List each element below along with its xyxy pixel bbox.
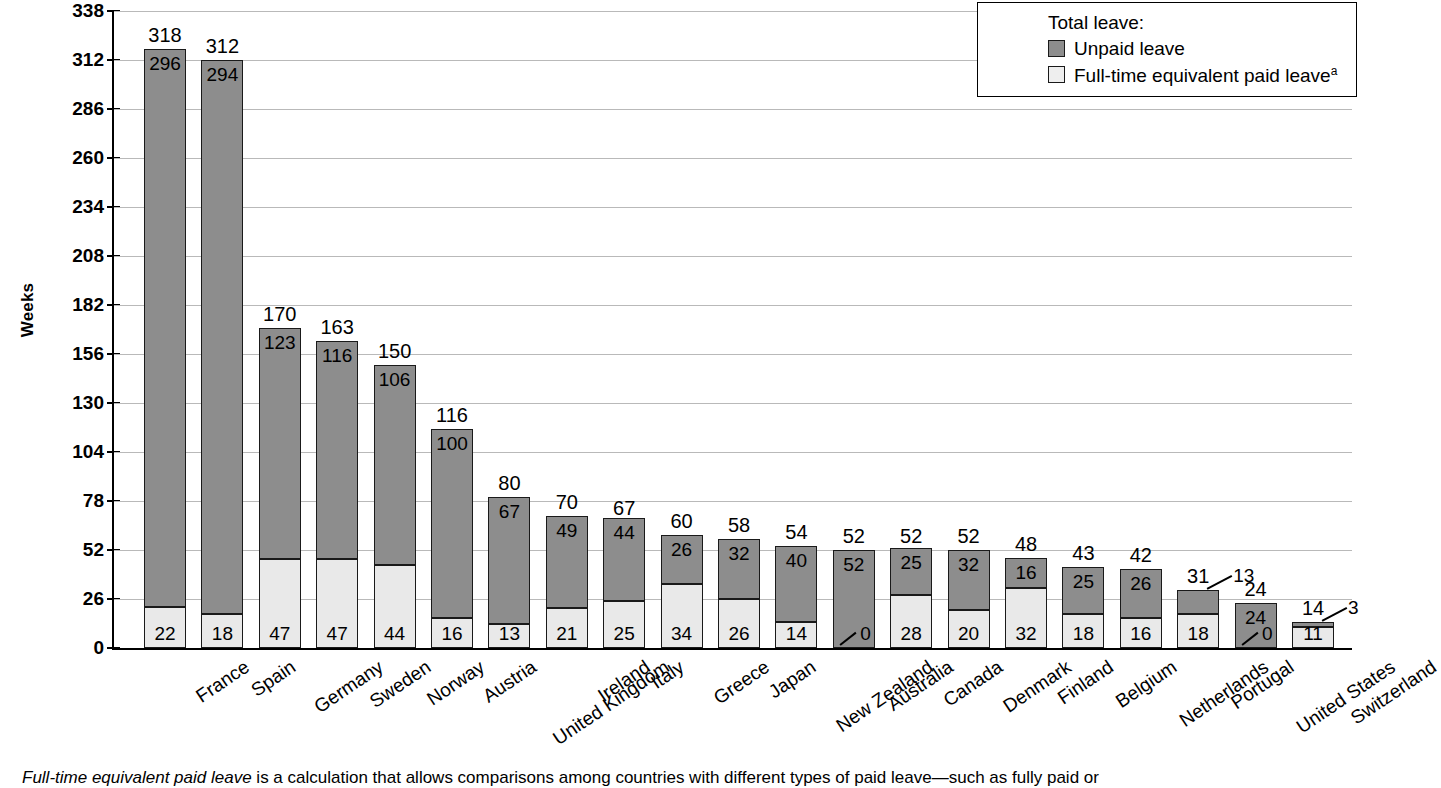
- bar-value-label-paid: 0: [833, 624, 871, 643]
- bar-total-label: 48: [997, 534, 1055, 554]
- bar-value-label-unpaid: 52: [833, 555, 875, 574]
- y-tick-label: 260: [42, 147, 104, 169]
- legend-label-paid: Full-time equivalent paid leavea: [1074, 61, 1337, 86]
- bar-value-label-unpaid: 296: [144, 54, 186, 73]
- legend-swatch-paid-icon: [1048, 66, 1065, 83]
- bar-value-label-paid: 11: [1292, 624, 1334, 643]
- bar-value-label-unpaid: 49: [546, 521, 588, 540]
- x-axis-label: Norway: [423, 656, 489, 710]
- bar-value-label-paid: 47: [316, 624, 358, 643]
- bar-value-label-paid: 22: [144, 624, 186, 643]
- bar-value-label-unpaid: 26: [1120, 574, 1162, 593]
- y-tick-label: 130: [42, 392, 104, 414]
- bar-segment-unpaid[interactable]: [259, 328, 301, 560]
- bar-value-label-unpaid: 100: [431, 434, 473, 453]
- footnote-term: Full-time equivalent paid leave: [22, 768, 252, 787]
- footnote-rest: is a calculation that allows comparisons…: [252, 768, 1099, 787]
- bar-total-label: 52: [825, 526, 883, 546]
- bar-group[interactable]: [259, 328, 301, 648]
- y-tick-label: 208: [42, 245, 104, 267]
- bar-value-label-unpaid: 24: [1235, 608, 1277, 627]
- bar-total-label: 54: [767, 522, 825, 542]
- legend-swatch-unpaid-icon: [1048, 40, 1065, 57]
- gridline: [114, 207, 1352, 208]
- bar-total-label: 67: [595, 498, 653, 518]
- y-axis-title: Weeks: [18, 260, 38, 360]
- bar-group[interactable]: [201, 60, 243, 648]
- y-tick-label: 104: [42, 441, 104, 463]
- bar-total-label: 318: [136, 25, 194, 45]
- bar-total-label: 43: [1054, 543, 1112, 563]
- bar-value-label-paid: 16: [431, 624, 473, 643]
- bar-group[interactable]: [316, 341, 358, 648]
- x-axis-label: Austria: [479, 656, 540, 707]
- x-axis-label: France: [192, 656, 253, 707]
- bar-value-label-unpaid: 116: [316, 346, 358, 365]
- bar-value-label-unpaid: 25: [890, 553, 932, 572]
- bar-segment-unpaid[interactable]: [201, 60, 243, 614]
- x-axis-line: [112, 648, 1352, 650]
- bar-group[interactable]: [431, 429, 473, 648]
- bar-segment-unpaid[interactable]: [431, 429, 473, 617]
- bar-value-label-unpaid: 67: [488, 502, 530, 521]
- bar-total-label: 163: [308, 317, 366, 337]
- bar-value-label-paid: 32: [1005, 624, 1047, 643]
- x-axis-label: Japan: [765, 656, 820, 703]
- bar-value-label-paid: 34: [661, 624, 703, 643]
- y-tick-label: 338: [42, 0, 104, 22]
- legend-label-unpaid: Unpaid leave: [1074, 38, 1185, 59]
- bar-total-label: 80: [480, 473, 538, 493]
- bar-value-label-paid: 14: [775, 624, 817, 643]
- y-tick-label: 234: [42, 196, 104, 218]
- bar-group[interactable]: [144, 49, 186, 648]
- bar-value-label-unpaid: 16: [1005, 563, 1047, 582]
- gridline: [114, 109, 1352, 110]
- bar-segment-unpaid[interactable]: [374, 365, 416, 565]
- bar-value-label-unpaid: 106: [374, 370, 416, 389]
- bar-total-label: 312: [193, 36, 251, 56]
- legend: Total leave: Unpaid leave Full-time equi…: [977, 2, 1357, 97]
- bar-total-label: 52: [940, 526, 998, 546]
- bar-value-label-paid: 47: [259, 624, 301, 643]
- bar-total-label: 116: [423, 405, 481, 425]
- bar-value-label-paid: 13: [488, 624, 530, 643]
- bar-value-label-paid: 26: [718, 624, 760, 643]
- bar-segment-unpaid[interactable]: [144, 49, 186, 607]
- bar-value-label-paid: 16: [1120, 624, 1162, 643]
- bar-segment-unpaid[interactable]: [1177, 590, 1219, 615]
- gridline: [114, 256, 1352, 257]
- y-axis-line: [112, 10, 114, 650]
- bar-group[interactable]: [374, 365, 416, 648]
- y-tick-label: 312: [42, 49, 104, 71]
- y-tick-label: 52: [42, 539, 104, 561]
- bar-value-label-paid: 18: [1177, 624, 1219, 643]
- bar-segment-unpaid[interactable]: [316, 341, 358, 560]
- bar-value-label-unpaid: 32: [718, 544, 760, 563]
- bar-total-label: 60: [653, 511, 711, 531]
- bar-value-label-paid: 44: [374, 624, 416, 643]
- bar-total-label: 170: [251, 304, 309, 324]
- bar-value-label-unpaid: 294: [201, 65, 243, 84]
- x-axis-label: Belgium: [1112, 656, 1181, 713]
- gridline: [114, 158, 1352, 159]
- y-tick-label: 156: [42, 343, 104, 365]
- bar-value-label-unpaid: 25: [1062, 572, 1104, 591]
- bar-value-label-unpaid: 44: [603, 523, 645, 542]
- legend-item-unpaid: Unpaid leave: [1048, 35, 1356, 61]
- x-axis-label: Greece: [709, 656, 773, 709]
- y-tick-label: 182: [42, 294, 104, 316]
- bar-value-label-unpaid: 32: [948, 555, 990, 574]
- bar-value-label-paid: 18: [1062, 624, 1104, 643]
- bar-total-label: 42: [1112, 545, 1170, 565]
- bar-total-label: 150: [366, 341, 424, 361]
- y-tick-label: 286: [42, 98, 104, 120]
- bar-value-label-paid: 21: [546, 624, 588, 643]
- y-tick-label: 26: [42, 588, 104, 610]
- legend-title: Total leave:: [1048, 11, 1356, 35]
- y-tick-label: 0: [42, 637, 104, 659]
- bar-value-label-unpaid: 123: [259, 333, 301, 352]
- bar-value-label-unpaid: 40: [775, 551, 817, 570]
- legend-item-paid: Full-time equivalent paid leavea: [1048, 61, 1356, 87]
- bar-value-label-paid: 28: [890, 624, 932, 643]
- bar-total-label: 52: [882, 526, 940, 546]
